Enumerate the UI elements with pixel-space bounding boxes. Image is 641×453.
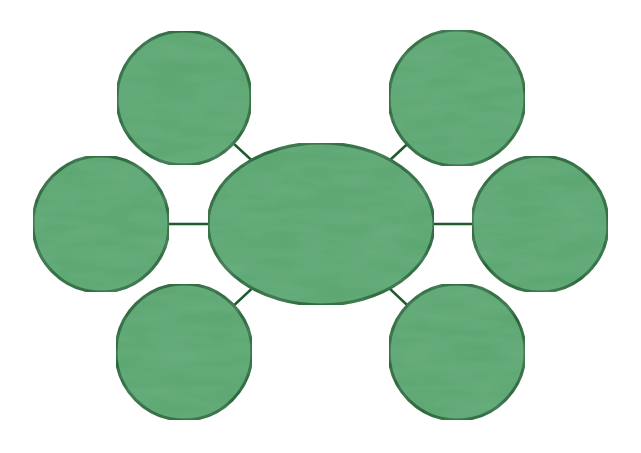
satellite-node-right xyxy=(472,156,608,292)
satellite-circle-right xyxy=(472,156,608,292)
nodes xyxy=(33,30,608,420)
satellite-circle-top-right xyxy=(389,30,525,166)
satellite-node-bottom-left xyxy=(116,284,252,420)
satellite-circle-top-left xyxy=(117,31,251,165)
center-ellipse xyxy=(208,143,434,305)
satellite-circle-left xyxy=(33,156,169,292)
satellite-circle-bottom-left xyxy=(116,284,252,420)
center-node xyxy=(208,143,434,305)
satellite-node-left xyxy=(33,156,169,292)
satellite-circle-bottom-right xyxy=(389,284,525,420)
satellite-node-top-right xyxy=(389,30,525,166)
bubble-map-diagram xyxy=(0,0,641,453)
satellite-node-top-left xyxy=(117,31,251,165)
satellite-node-bottom-right xyxy=(389,284,525,420)
